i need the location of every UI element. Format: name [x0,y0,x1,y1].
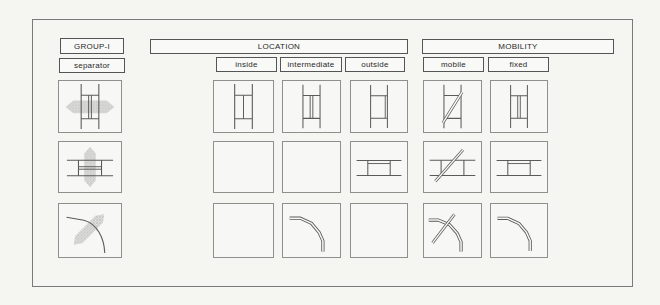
sep-straight-h-icon [59,142,121,192]
panel-diag-v-icon [424,81,481,132]
column-header-outside: outside [345,57,405,72]
cell-outside-row1 [350,80,408,133]
row-label-box: separator [59,58,125,73]
column-header-inside-label: inside [235,60,257,69]
cell-inside-row3 [213,203,274,258]
symbol-matrix-diagram: GROUP-I separator LOCATION MOBILITY insi… [0,0,660,305]
cell-inside-row1 [213,80,274,133]
cell-fixed-row2 [490,141,548,193]
row-label: separator [74,61,110,70]
panel-top-h-icon [351,142,407,192]
cell-fixed-row1 [490,80,548,133]
curve-cross-icon [424,204,481,257]
cell-separator-row1 [58,80,122,133]
cell-intermediate-row2 [282,141,341,193]
cell-intermediate-row3 [282,203,341,258]
mobility-header: MOBILITY [422,39,614,54]
panel-mid-v-icon [283,81,340,132]
cell-mobile-row1 [423,80,482,133]
location-header: LOCATION [150,39,408,54]
column-header-fixed: fixed [488,57,549,72]
column-header-mobile: mobile [423,57,484,72]
column-header-inside: inside [216,57,277,72]
curve-double-icon [491,204,547,257]
cell-fixed-row3 [490,203,548,258]
cell-intermediate-row1 [282,80,341,133]
cell-outside-row3 [350,203,408,258]
cell-inside-row2 [213,141,274,193]
group-label: GROUP-I [74,42,110,51]
cell-mobile-row3 [423,203,482,258]
mobility-header-label: MOBILITY [498,42,537,51]
cell-separator-row3 [58,203,122,258]
panel-outside-v-icon [351,81,407,132]
panel-mid-v-icon [491,81,547,132]
cell-mobile-row2 [423,141,482,193]
cell-separator-row2 [58,141,122,193]
column-header-intermediate: intermediate [280,57,342,72]
cell-outside-row2 [350,141,408,193]
column-header-outside-label: outside [361,60,389,69]
curve-double-icon [283,204,340,257]
column-header-intermediate-label: intermediate [287,60,334,69]
column-header-mobile-label: mobile [441,60,466,69]
sep-straight-v-icon [59,81,121,132]
panel-top-h-icon [491,142,547,192]
panel-inside-v-icon [214,81,273,132]
column-header-fixed-label: fixed [509,60,527,69]
panel-diag-h-icon [424,142,481,192]
group-label-box: GROUP-I [60,38,124,54]
location-header-label: LOCATION [258,42,300,51]
sep-curve-icon [59,204,121,257]
